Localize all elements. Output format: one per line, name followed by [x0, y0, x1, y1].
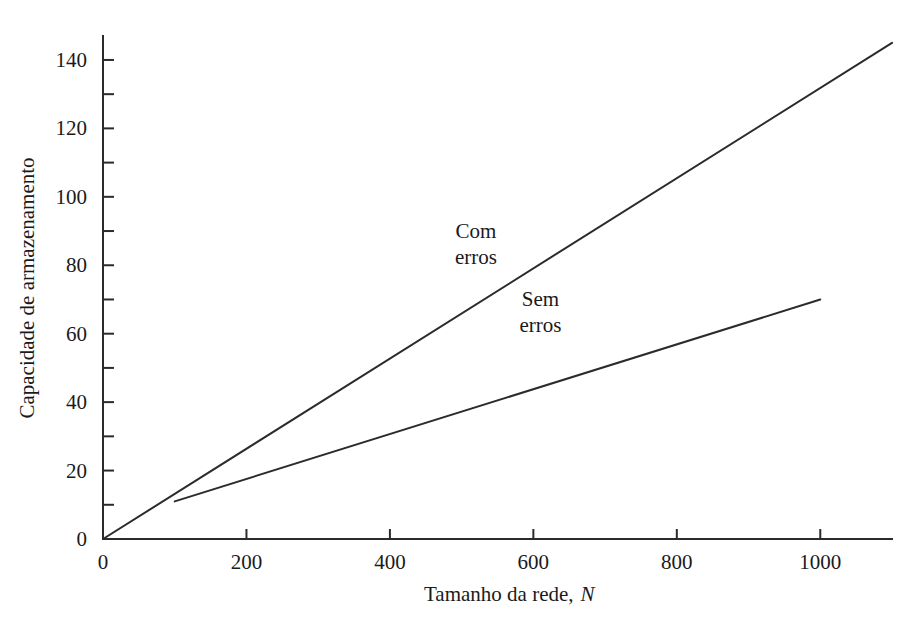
x-axis-tick-label: 800: [661, 550, 693, 574]
x-axis-title: Tamanho da rede,N: [424, 582, 596, 606]
y-axis-tick-label: 100: [56, 185, 88, 209]
y-axis-title: Capacidade de armazenamento: [15, 157, 39, 418]
y-axis-tick-label: 40: [66, 390, 87, 414]
y-axis-tick-label: 120: [56, 116, 88, 140]
x-axis-title-text: Tamanho da rede,: [424, 582, 574, 606]
y-axis-tick-label: 80: [66, 253, 87, 277]
series-annotation-line2: erros: [455, 245, 497, 269]
chart-figure: 020406080100120140 02004006008001000 Com…: [0, 0, 908, 629]
x-axis-tick-label: 0: [98, 550, 109, 574]
x-axis-tick-label: 200: [231, 550, 263, 574]
series-annotation-line2: erros: [520, 313, 562, 337]
y-axis-tick-label: 0: [77, 527, 88, 551]
x-axis-tick-label: 1000: [799, 550, 841, 574]
x-axis-tick-label: 600: [518, 550, 550, 574]
y-axis-tick-label: 60: [66, 322, 87, 346]
series-annotation-line1: Sem: [522, 287, 559, 311]
y-axis-tick-label: 140: [56, 48, 88, 72]
y-axis-tick-label: 20: [66, 459, 87, 483]
series-annotation-line1: Com: [456, 219, 497, 243]
x-axis-tick-label: 400: [374, 550, 406, 574]
x-axis-title-symbol: N: [580, 582, 596, 606]
plot-area: 020406080100120140 02004006008001000 Com…: [0, 0, 908, 629]
